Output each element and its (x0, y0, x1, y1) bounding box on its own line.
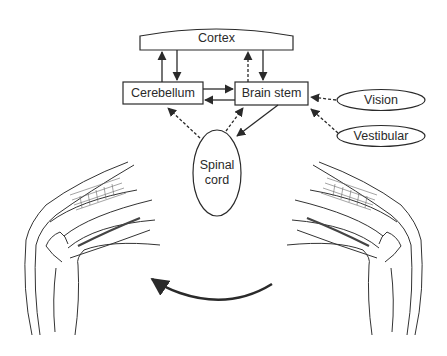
cortex-label: Cortex (140, 31, 293, 45)
cerebellum-label: Cerebellum (123, 86, 203, 100)
left-knee-illustration (25, 162, 160, 335)
edge-brainstem-to-spinal (237, 105, 278, 136)
edge-vision-to-brainstem (311, 97, 336, 100)
edge-vestibular-to-brainstem (311, 109, 338, 133)
edge-spinal-to-brainstem (226, 108, 243, 131)
vision-label: Vision (337, 93, 425, 107)
edge-spinal-to-cerebellum (168, 108, 200, 138)
spinal-cord-label-line1: Spinal (193, 158, 241, 172)
spinal-cord-label-line2: cord (193, 173, 241, 187)
right-knee-illustration (287, 162, 422, 335)
curved-arrow-icon (152, 279, 272, 300)
brain-stem-label: Brain stem (235, 86, 308, 100)
vestibular-label: Vestibular (337, 129, 425, 143)
